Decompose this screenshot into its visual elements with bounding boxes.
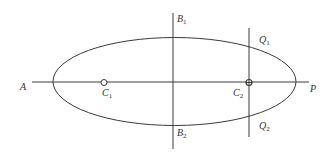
label-b1: B1 <box>177 13 187 26</box>
label-b2: B2 <box>177 127 187 140</box>
label-a: A <box>19 81 27 92</box>
focus-c1-marker <box>101 80 107 86</box>
label-q2: Q2 <box>259 120 270 133</box>
label-c1: C1 <box>102 87 113 100</box>
label-p: P <box>309 83 316 94</box>
label-q1: Q1 <box>259 34 270 47</box>
label-c2: C2 <box>233 87 244 100</box>
ellipse-orbit-diagram: A P C1 C2 B1 B2 Q1 Q2 <box>0 0 331 158</box>
